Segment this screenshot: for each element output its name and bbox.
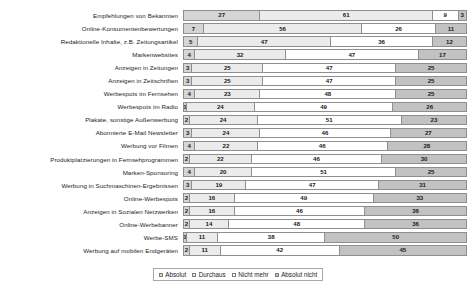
bar-segment-value: 11 — [199, 234, 205, 240]
legend-item[interactable]: Absolut nicht — [275, 271, 318, 278]
chart-row: Anzeigen in Sozialen Netzwerken2164636 — [0, 205, 476, 218]
bar-segment-value: 11 — [201, 247, 207, 253]
category-label: Plakate, sonstige Außenwerbung — [0, 116, 183, 123]
stacked-bar: 2245123 — [183, 115, 467, 125]
bar-segment-value: 25 — [428, 77, 435, 83]
category-label: Werbespots im Radio — [0, 103, 183, 110]
stacked-bar-chart: Empfehlungen von Bekannten276193Online-K… — [0, 0, 476, 290]
bar-segment-value: 27 — [218, 12, 225, 18]
bar-segment-value: 16 — [208, 195, 215, 201]
legend-label: Absolut — [165, 271, 186, 278]
bar-segment-value: 4 — [187, 90, 190, 96]
legend-item[interactable]: Durchaus — [192, 271, 225, 278]
stacked-bar: 5473612 — [183, 36, 467, 46]
category-label: Online-Werbebanner — [0, 221, 183, 228]
legend-swatch-icon — [232, 273, 236, 277]
chart-row: Redaktionelle Inhalte, z.B. Zeitungsarti… — [0, 35, 476, 48]
bar-segment: 23 — [402, 115, 467, 125]
bar-segment-value: 42 — [276, 247, 283, 253]
bar-segment-value: 4 — [187, 143, 190, 149]
bar-segment: 14 — [190, 219, 230, 229]
bar-segment: 25 — [192, 63, 263, 73]
legend-label: Nicht mehr — [238, 271, 268, 278]
category-label: Produktplatzierungen in Fernsehprogramme… — [0, 156, 183, 163]
bar-segment-value: 49 — [320, 103, 327, 109]
chart-legend: AbsolutDurchausNicht mehrAbsolut nicht — [0, 268, 476, 281]
bar-segment: 12 — [433, 36, 467, 46]
bar-segment-value: 25 — [224, 64, 231, 70]
bar-segment: 49 — [235, 193, 374, 203]
bar-segment: 27 — [391, 128, 467, 138]
legend-box: AbsolutDurchausNicht mehrAbsolut nicht — [153, 268, 323, 281]
bar-segment-value: 32 — [237, 51, 244, 57]
bar-segment: 45 — [340, 245, 467, 255]
bar-segment: 47 — [263, 76, 396, 86]
bar-segment: 46 — [260, 128, 390, 138]
bar-segment: 30 — [382, 154, 467, 164]
bar-segment-value: 22 — [217, 156, 224, 162]
stacked-bar: 2144836 — [183, 219, 467, 229]
bar-segment: 24 — [187, 102, 255, 112]
bar-segment: 17 — [419, 49, 467, 59]
bar-segment-value: 26 — [426, 103, 433, 109]
bar-segment-value: 14 — [206, 221, 213, 227]
bar-segment: 4 — [184, 89, 195, 99]
bar-segment-value: 56 — [279, 25, 286, 31]
bar-segment-value: 4 — [187, 51, 190, 57]
category-label: Empfehlungen von Bekannten — [0, 12, 183, 19]
category-label: Anzeigen in Zeitschriften — [0, 77, 183, 84]
stacked-bar: 3244627 — [183, 128, 467, 138]
bar-segment-value: 4 — [187, 169, 190, 175]
bar-segment: 25 — [396, 167, 467, 177]
bar-segment-value: 19 — [215, 182, 222, 188]
bar-segment: 11 — [190, 245, 221, 255]
category-label: Werbung vor Filmen — [0, 142, 183, 149]
bar-segment-value: 47 — [326, 64, 333, 70]
legend-item[interactable]: Nicht mehr — [232, 271, 269, 278]
bar-segment: 61 — [260, 10, 433, 20]
bar-segment-value: 47 — [309, 182, 316, 188]
bar-segment-value: 2 — [185, 221, 188, 227]
bar-segment-value: 51 — [320, 169, 327, 175]
category-label: Online-Werbespots — [0, 195, 183, 202]
bar-segment: 38 — [218, 232, 326, 242]
chart-row: Werbespots im Radio1244926 — [0, 100, 476, 113]
legend-swatch-icon — [275, 273, 279, 277]
bar-segment: 47 — [246, 180, 379, 190]
category-label: Werbung auf mobilen Endgeräten — [0, 247, 183, 254]
chart-row: Online-Werbebanner2144836 — [0, 218, 476, 231]
chart-row: Anzeigen in Zeitungen3254725 — [0, 61, 476, 74]
chart-row: Plakate, sonstige Außenwerbung2245123 — [0, 113, 476, 126]
chart-plot-area: Empfehlungen von Bekannten276193Online-K… — [0, 9, 476, 257]
bar-segment-value: 36 — [412, 208, 419, 214]
bar-segment: 4 — [184, 49, 195, 59]
category-label: Markenwebsites — [0, 51, 183, 58]
chart-row: Online-Konsumentenbewertungen7562611 — [0, 22, 476, 35]
chart-row: Abonnierte E-Mail Newsletter3244627 — [0, 126, 476, 139]
chart-row: Werbespots im Fernsehen4234825 — [0, 87, 476, 100]
category-label: Anzeigen in Zeitungen — [0, 64, 183, 71]
bar-segment: 48 — [229, 219, 365, 229]
bar-segment: 24 — [190, 115, 258, 125]
bar-segment-value: 46 — [313, 156, 320, 162]
bar-segment: 42 — [221, 245, 340, 255]
bar-segment-value: 3 — [186, 182, 189, 188]
legend-item[interactable]: Absolut — [159, 271, 187, 278]
bar-segment-value: 24 — [223, 130, 230, 136]
stacked-bar: 1113850 — [183, 232, 467, 242]
bar-segment: 47 — [198, 36, 331, 46]
bar-segment-value: 23 — [431, 117, 438, 123]
bar-segment-value: 2 — [185, 208, 188, 214]
bar-segment-value: 16 — [208, 208, 215, 214]
legend-label: Absolut nicht — [281, 271, 317, 278]
category-label: Werbespots im Fernsehen — [0, 90, 183, 97]
bar-segment-value: 23 — [224, 90, 231, 96]
bar-segment-value: 28 — [423, 143, 430, 149]
bar-segment-value: 17 — [439, 51, 446, 57]
bar-segment: 22 — [195, 141, 257, 151]
bar-segment-value: 7 — [192, 25, 195, 31]
bar-segment: 56 — [204, 23, 362, 33]
bar-segment: 7 — [184, 23, 204, 33]
bar-segment-value: 25 — [224, 77, 231, 83]
bar-segment-value: 20 — [220, 169, 227, 175]
